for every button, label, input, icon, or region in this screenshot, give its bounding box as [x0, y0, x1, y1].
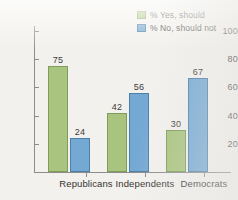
- bar-democrats-no: 67: [188, 78, 208, 172]
- legend-label-no: % No, should not: [150, 23, 216, 33]
- legend-label-yes: % Yes, should: [150, 10, 205, 20]
- bar-value-republicans-yes: 75: [53, 55, 63, 65]
- bar-value-democrats-yes: 30: [171, 119, 181, 129]
- bar-republicans-yes: 75: [48, 66, 68, 172]
- bar-independents-no: 56: [129, 93, 149, 172]
- bar-democrats-yes: 30: [166, 130, 186, 172]
- x-axis-label-democrats: Democrats: [157, 178, 238, 189]
- plot-area: 75 24 42 56 30 67: [34, 31, 230, 172]
- bar-value-democrats-no: 67: [193, 67, 203, 77]
- bar-value-republicans-no: 24: [75, 127, 85, 137]
- x-axis-line: [34, 172, 231, 173]
- bar-independents-yes: 42: [107, 113, 127, 172]
- legend-item-no: % No, should not: [137, 23, 216, 33]
- bar-value-independents-yes: 42: [112, 102, 122, 112]
- bar-chart: 100 80 60 40 20 75 24 42 56 30 67 Republ…: [0, 0, 238, 200]
- legend: % Yes, should % No, should not: [137, 10, 216, 33]
- x-axis-tick-independents: [145, 172, 146, 177]
- legend-item-yes: % Yes, should: [137, 10, 216, 20]
- x-axis-tick-democrats: [204, 172, 205, 177]
- legend-swatch-icon-no: [137, 24, 146, 32]
- bar-value-independents-no: 56: [134, 82, 144, 92]
- legend-swatch-icon-yes: [137, 11, 146, 19]
- bar-republicans-no: 24: [70, 138, 90, 172]
- x-axis-tick-republicans: [86, 172, 87, 177]
